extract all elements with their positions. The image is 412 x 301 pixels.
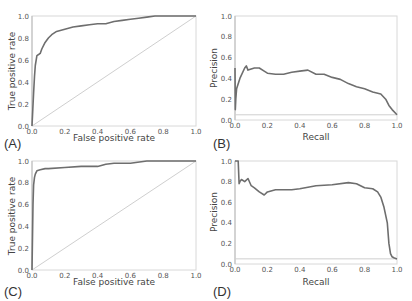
panel-a-ylabel: True positive rate — [7, 31, 17, 111]
x-tick-label: 0.6 — [327, 122, 339, 130]
y-tick-label: 1.0 — [18, 13, 29, 21]
panel-d-xlabel: Recall — [303, 277, 330, 287]
x-tick-label: 0.2 — [262, 266, 273, 274]
panel-c-ylabel: True positive rate — [7, 176, 17, 256]
x-tick-label: 0.2 — [59, 272, 70, 280]
y-tick-label: 0.6 — [18, 57, 30, 65]
panel-d-label: (D) — [213, 284, 231, 299]
panel-b: 0.00.20.40.60.81.00.00.20.40.60.81.0 — [221, 13, 403, 131]
y-tick-label: 0.2 — [18, 245, 29, 253]
y-tick-label: 1.0 — [18, 158, 29, 166]
y-tick-label: 1.0 — [221, 13, 232, 21]
x-tick-label: 0.4 — [294, 266, 306, 274]
curve-pr — [235, 66, 397, 115]
panel-b-xlabel: Recall — [303, 132, 330, 142]
y-tick-label: 0.8 — [221, 33, 232, 41]
y-tick-label: 0.8 — [18, 179, 29, 187]
x-tick-label: 0.8 — [359, 122, 370, 130]
x-tick-label: 1.0 — [391, 266, 402, 274]
y-tick-label: 0.2 — [221, 96, 232, 104]
x-tick-label: 0.8 — [158, 272, 169, 280]
y-tick-label: 0.8 — [18, 35, 29, 43]
panel-a-label: (A) — [4, 136, 21, 151]
x-tick-label: 0.6 — [327, 266, 339, 274]
y-tick-label: 0.8 — [221, 178, 232, 186]
x-tick-label: 0.4 — [294, 122, 306, 130]
panel-c-xlabel: False positive rate — [73, 277, 155, 287]
y-tick-label: 1.0 — [221, 158, 232, 166]
y-tick-label: 0.4 — [18, 79, 30, 87]
y-tick-label: 0.0 — [221, 261, 232, 269]
x-tick-label: 0.2 — [262, 122, 273, 130]
y-tick-label: 0.4 — [18, 223, 30, 231]
y-tick-label: 0.2 — [221, 240, 232, 248]
x-tick-label: 0.8 — [158, 128, 169, 136]
panel-a: 0.00.20.40.60.81.00.00.20.40.60.81.0 — [18, 13, 202, 137]
y-tick-label: 0.6 — [221, 199, 233, 207]
x-tick-label: 0.2 — [59, 128, 70, 136]
x-tick-label: 1.0 — [190, 272, 201, 280]
panel-d-ylabel: Precision — [209, 192, 219, 232]
panel-b-label: (B) — [213, 136, 230, 151]
y-tick-label: 0.0 — [18, 267, 29, 275]
panel-b-ylabel: Precision — [209, 48, 219, 88]
y-tick-label: 0.0 — [221, 117, 232, 125]
panel-c: 0.00.20.40.60.81.00.00.20.40.60.81.0 — [18, 158, 202, 281]
chance-diagonal — [32, 161, 196, 270]
x-tick-label: 1.0 — [190, 128, 201, 136]
figure: 0.00.20.40.60.81.00.00.20.40.60.81.0 Fal… — [0, 0, 412, 301]
panel-d: 0.00.20.40.60.81.00.00.20.40.60.81.0 — [221, 158, 403, 275]
panel-c-label: (C) — [4, 284, 22, 299]
y-tick-label: 0.0 — [18, 123, 29, 131]
x-tick-label: 0.8 — [359, 266, 370, 274]
curve-pr — [235, 161, 397, 259]
y-tick-label: 0.4 — [221, 75, 233, 83]
chance-diagonal — [32, 16, 196, 126]
plot-frame — [235, 161, 397, 264]
y-tick-label: 0.4 — [221, 219, 233, 227]
y-tick-label: 0.2 — [18, 101, 29, 109]
x-tick-label: 1.0 — [391, 122, 402, 130]
y-tick-label: 0.6 — [18, 201, 30, 209]
panel-a-xlabel: False positive rate — [73, 133, 155, 143]
y-tick-label: 0.6 — [221, 54, 233, 62]
